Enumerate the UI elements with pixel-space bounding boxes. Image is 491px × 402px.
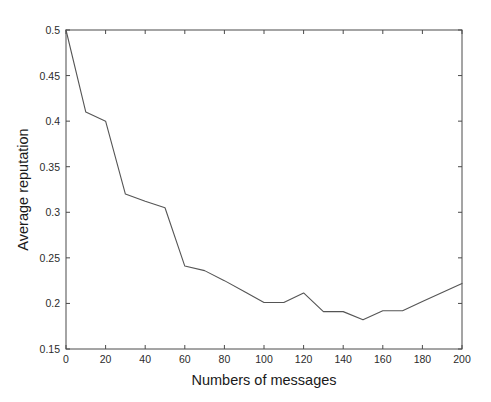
x-tick-label: 120 <box>295 353 313 365</box>
y-tick-label: 0.4 <box>45 115 60 127</box>
y-axis-title: Average reputation <box>15 128 31 250</box>
x-axis-tick-labels: 020406080100120140160180200 <box>63 353 471 365</box>
y-axis-ticks <box>66 30 462 349</box>
y-tick-label: 0.15 <box>40 343 61 355</box>
x-tick-label: 180 <box>414 353 432 365</box>
x-tick-label: 200 <box>453 353 471 365</box>
x-tick-label: 100 <box>255 353 273 365</box>
line-chart: 020406080100120140160180200 0.150.20.250… <box>0 0 491 402</box>
data-series-line <box>66 30 462 320</box>
y-axis-tick-labels: 0.150.20.250.30.350.40.450.5 <box>40 24 61 355</box>
x-tick-label: 80 <box>219 353 231 365</box>
y-tick-label: 0.2 <box>45 297 60 309</box>
x-tick-label: 20 <box>100 353 112 365</box>
x-tick-label: 160 <box>374 353 392 365</box>
y-tick-label: 0.25 <box>40 252 61 264</box>
y-tick-label: 0.35 <box>40 161 61 173</box>
x-axis-ticks <box>66 30 462 349</box>
chart-figure: 020406080100120140160180200 0.150.20.250… <box>0 0 491 402</box>
axes-frame <box>66 30 462 349</box>
y-tick-label: 0.3 <box>45 206 60 218</box>
x-tick-label: 140 <box>334 353 352 365</box>
x-tick-label: 40 <box>139 353 151 365</box>
x-axis-title: Numbers of messages <box>191 372 336 388</box>
x-tick-label: 60 <box>179 353 191 365</box>
y-tick-label: 0.5 <box>45 24 60 36</box>
y-tick-label: 0.45 <box>40 70 61 82</box>
x-tick-label: 0 <box>63 353 69 365</box>
